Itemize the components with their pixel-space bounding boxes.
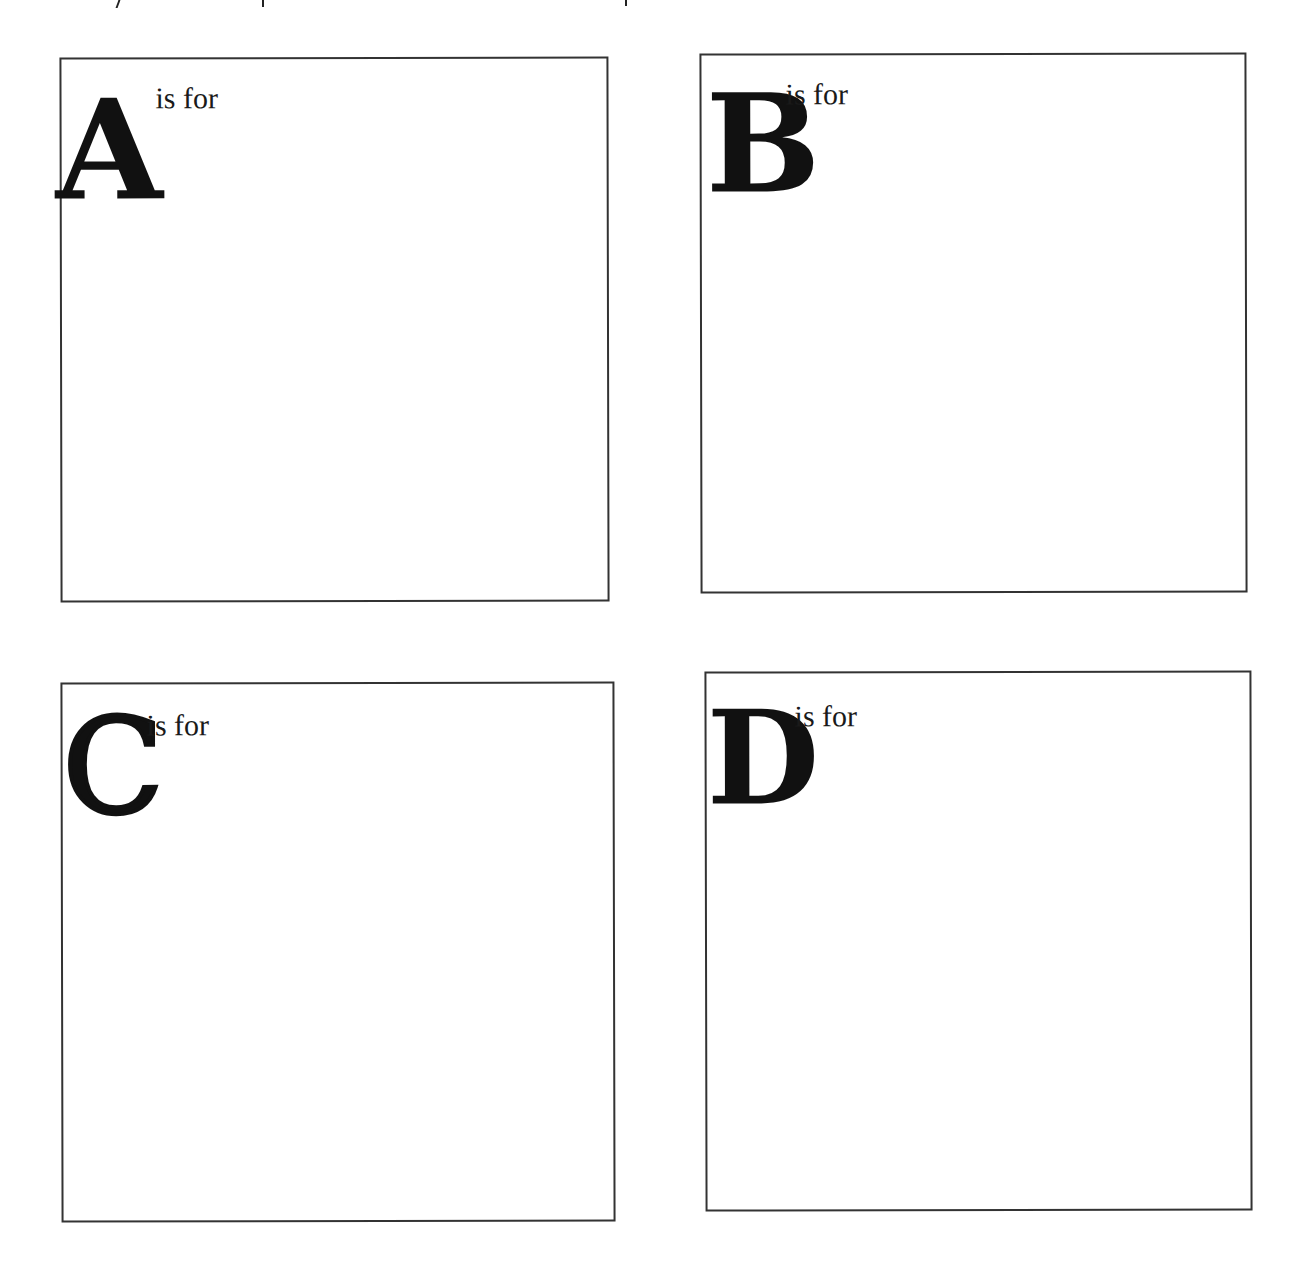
is-for-caption: is for: [794, 701, 857, 731]
clipped-text-fragment: [262, 0, 264, 7]
letter-box-b: B is for: [699, 52, 1247, 593]
drop-cap-letter: A: [55, 81, 162, 219]
letter-box-a: A is for: [59, 56, 609, 602]
is-for-caption: is for: [155, 83, 218, 113]
is-for-caption: is for: [146, 710, 209, 740]
clipped-text-fragment: [116, 0, 121, 8]
letter-box-c: C is for: [60, 681, 615, 1222]
clipped-text-fragment: [625, 0, 627, 6]
is-for-caption: is for: [785, 79, 848, 109]
letter-box-d: D is for: [704, 670, 1252, 1211]
